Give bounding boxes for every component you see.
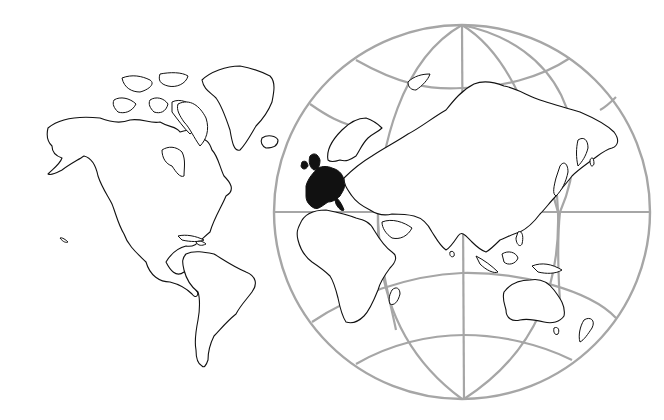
new-zealand xyxy=(579,318,593,342)
arctic-island-2 xyxy=(149,98,168,113)
south-america-mainland xyxy=(183,252,256,367)
parallel-n30-east xyxy=(600,97,616,110)
north-america xyxy=(47,66,278,297)
philippines xyxy=(516,232,523,246)
italy xyxy=(334,196,344,211)
great-britain xyxy=(309,154,320,170)
hispaniola xyxy=(196,241,206,245)
sumatra xyxy=(476,256,498,273)
western-europe-highlighted xyxy=(301,154,345,211)
africa xyxy=(297,210,412,323)
arctic-island-4 xyxy=(122,76,152,92)
south-america xyxy=(183,252,256,367)
madagascar xyxy=(389,288,400,305)
tasmania xyxy=(554,327,559,334)
hawaii xyxy=(60,238,68,243)
parallel-n30 xyxy=(310,104,352,126)
world-map xyxy=(0,0,664,420)
borneo xyxy=(502,252,518,264)
sakhalin xyxy=(590,158,594,166)
sri-lanka xyxy=(450,251,454,256)
arctic-island-5 xyxy=(159,73,188,87)
africa-mainland xyxy=(297,210,395,323)
arabia xyxy=(382,220,412,238)
arctic-island-1 xyxy=(113,98,136,113)
iceland xyxy=(261,136,278,148)
ireland xyxy=(301,161,308,169)
